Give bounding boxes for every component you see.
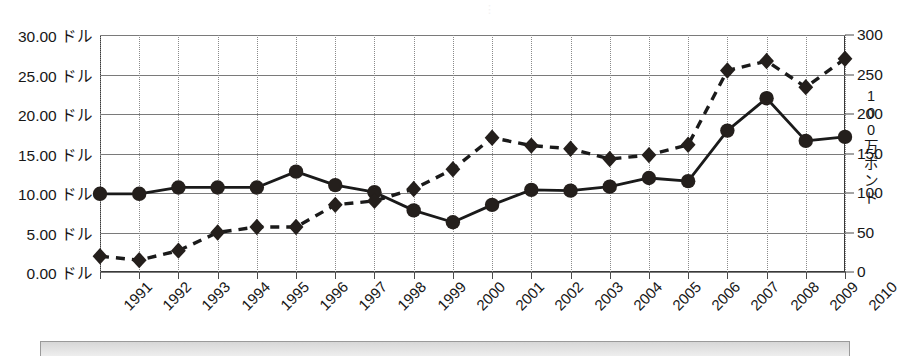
series-volume <box>93 51 853 269</box>
data-point-marker <box>289 164 303 178</box>
data-point-marker <box>485 130 500 146</box>
data-point-marker <box>720 62 735 78</box>
series-price <box>93 91 852 229</box>
data-point-marker <box>328 178 342 192</box>
x-axis-tick <box>139 272 140 279</box>
x-axis-tick <box>571 272 572 279</box>
data-point-marker <box>328 197 343 213</box>
x-axis-tick <box>610 272 611 279</box>
data-point-marker <box>171 180 185 194</box>
x-axis-tick <box>845 272 846 279</box>
legend-box <box>40 341 850 356</box>
x-axis-tick <box>335 272 336 279</box>
data-point-marker <box>93 248 108 264</box>
data-point-marker <box>524 183 538 197</box>
data-point-marker <box>681 174 695 188</box>
series-line <box>100 59 845 260</box>
data-point-marker <box>93 187 107 201</box>
data-point-marker <box>759 91 773 105</box>
data-point-marker <box>720 123 734 137</box>
data-point-marker <box>132 252 147 268</box>
data-point-marker <box>446 215 460 229</box>
x-axis-tick <box>218 272 219 279</box>
data-point-marker <box>602 151 617 167</box>
data-point-marker <box>563 183 577 197</box>
data-point-marker <box>249 219 264 235</box>
x-axis-tick <box>806 272 807 279</box>
data-point-marker <box>210 180 224 194</box>
series-line <box>100 98 845 222</box>
data-point-marker <box>406 203 420 217</box>
data-point-marker <box>524 137 539 153</box>
x-axis-tick <box>296 272 297 279</box>
data-point-marker <box>838 130 852 144</box>
data-point-marker <box>603 179 617 193</box>
data-point-marker <box>681 137 696 153</box>
data-point-marker <box>289 219 304 235</box>
data-point-marker <box>445 161 460 177</box>
x-axis-tick <box>453 272 454 279</box>
data-point-marker <box>406 181 421 197</box>
data-point-marker <box>171 242 186 258</box>
x-axis-tick <box>492 272 493 279</box>
x-axis-tick <box>767 272 768 279</box>
data-point-marker <box>485 198 499 212</box>
x-axis-tick <box>257 272 258 279</box>
data-point-marker <box>250 180 264 194</box>
data-point-marker <box>799 134 813 148</box>
data-point-marker <box>210 224 225 240</box>
data-point-marker <box>563 141 578 157</box>
data-point-marker <box>642 171 656 185</box>
x-axis-tick <box>374 272 375 279</box>
data-point-marker <box>132 187 146 201</box>
x-axis-tick <box>688 272 689 279</box>
data-point-marker <box>759 53 774 69</box>
x-axis-tick <box>649 272 650 279</box>
x-axis-tick <box>414 272 415 279</box>
x-axis-tick <box>100 272 101 279</box>
data-point-marker <box>642 147 657 163</box>
x-axis-tick <box>531 272 532 279</box>
x-axis-tick <box>727 272 728 279</box>
x-axis-tick <box>178 272 179 279</box>
